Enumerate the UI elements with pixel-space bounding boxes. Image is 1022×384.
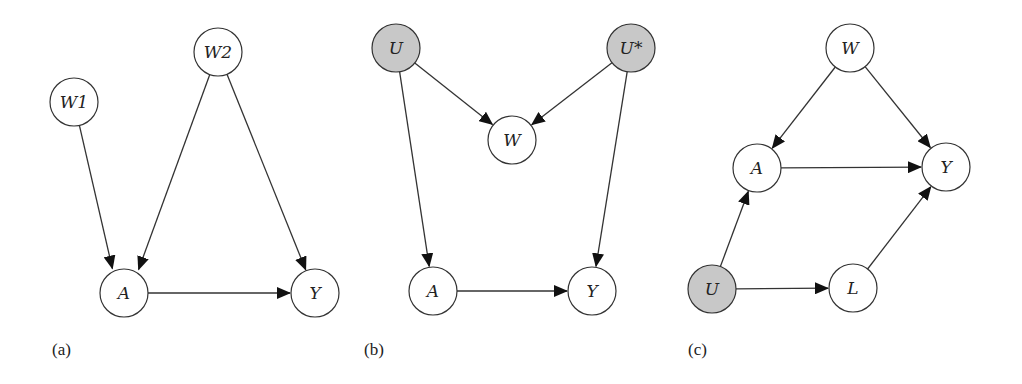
panel-label-a: (a) <box>52 340 71 359</box>
edge-w2-to-a <box>139 75 210 270</box>
edge-w-to-y <box>865 67 930 148</box>
node-a: A <box>409 267 457 315</box>
panel-label-b: (b) <box>364 340 384 359</box>
node-w2: W2 <box>194 28 242 76</box>
edge-u-to-a <box>720 191 748 266</box>
panel-c-graph: WAYUL(c) <box>688 24 970 359</box>
node-label: W <box>503 130 522 150</box>
edge-a-to-y <box>781 167 921 168</box>
node-ustar: U* <box>607 24 655 72</box>
causal-dag-figure: W1W2AY(a) UU*WAY(b) WAYUL(c) <box>0 0 1022 384</box>
node-label: W1 <box>60 92 88 112</box>
edge-w-to-a <box>772 67 835 148</box>
edge-w2-to-y <box>227 74 306 269</box>
node-label: Y <box>309 283 322 303</box>
panel-b-graph: UU*WAY(b) <box>364 24 655 359</box>
edge-w1-to-a <box>79 125 112 268</box>
edge-l-to-y <box>868 187 931 269</box>
node-a: A <box>100 269 148 317</box>
node-label: A <box>425 281 439 301</box>
node-label: W <box>841 38 860 58</box>
node-y: Y <box>922 143 970 191</box>
edge-u-to-w <box>415 63 493 125</box>
edge-u-to-l <box>736 288 828 289</box>
node-label: A <box>116 283 130 303</box>
panel-label-c: (c) <box>688 340 707 359</box>
node-w: W <box>488 116 536 164</box>
node-label: U <box>389 38 404 58</box>
node-a: A <box>733 144 781 192</box>
node-label: A <box>749 158 763 178</box>
node-y: Y <box>568 267 616 315</box>
node-w1: W1 <box>50 78 98 126</box>
node-label: U <box>705 279 720 299</box>
node-u: U <box>372 24 420 72</box>
node-label: U* <box>620 38 643 58</box>
node-label: L <box>846 278 858 298</box>
node-u: U <box>688 265 736 313</box>
node-w: W <box>826 24 874 72</box>
panel-a-graph: W1W2AY(a) <box>50 28 339 359</box>
node-label: Y <box>940 157 953 177</box>
edge-ustar-to-y <box>596 72 627 267</box>
edge-ustar-to-w <box>532 63 612 125</box>
node-l: L <box>829 264 877 312</box>
node-label: W2 <box>204 42 232 62</box>
edge-u-to-a <box>400 72 430 267</box>
node-label: Y <box>586 281 599 301</box>
node-y: Y <box>291 269 339 317</box>
